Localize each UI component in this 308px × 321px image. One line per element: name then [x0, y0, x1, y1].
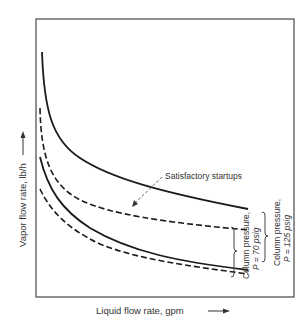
- brace-125-icon: [262, 212, 268, 262]
- annotation-arrow: [134, 177, 162, 204]
- x-axis-label: Liquid flow rate, gpm: [96, 305, 184, 316]
- arrow-head-icon: [132, 200, 138, 207]
- curve-125-upper: [42, 52, 248, 209]
- curve-70-upper: [40, 108, 248, 230]
- brace-70-icon: [231, 227, 237, 277]
- y-arrow-icon: [21, 131, 26, 138]
- chart: Satisfactory startups Column pressure, P…: [0, 0, 308, 321]
- label-p125-line1: Column pressure,: [272, 199, 282, 266]
- x-arrow-icon: [223, 309, 230, 314]
- y-axis-label: Vapor flow rate, lb/h: [17, 163, 28, 247]
- label-p70-line2: P = 70 psig: [251, 227, 261, 270]
- curve-70-lower: [40, 189, 248, 274]
- label-p125-line2: P = 125 psig: [282, 215, 292, 262]
- annotation-label: Satisfactory startups: [165, 171, 242, 181]
- label-p70-line1: Column pressure,: [241, 212, 251, 279]
